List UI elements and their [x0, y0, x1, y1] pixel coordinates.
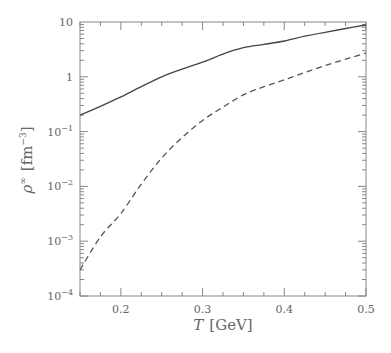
x-tick-label: 0.3	[194, 303, 212, 316]
dashed-curve	[80, 53, 366, 270]
x-tick-labels: 0.20.30.40.5	[112, 303, 375, 316]
y-tick-label: 10	[59, 16, 73, 29]
x-axis-title: T[GeV]	[193, 316, 252, 334]
x-tick-label: 0.4	[276, 303, 294, 316]
chart: 0.20.30.40.5 10110−110−210−310−4 T[GeV] …	[0, 0, 391, 353]
y-tick-labels: 10110−110−210−310−4	[47, 16, 73, 303]
axis-ticks	[80, 22, 366, 296]
solid-curve	[80, 25, 366, 115]
x-tick-label: 0.2	[112, 303, 130, 316]
y-tick-label: 10−4	[47, 288, 73, 303]
y-tick-label: 10−2	[47, 178, 73, 193]
plot-frame	[80, 22, 366, 296]
y-axis-title: ρ∞[fm−3]	[18, 126, 36, 194]
y-tick-label: 10−1	[47, 124, 73, 139]
y-tick-label: 1	[66, 71, 73, 84]
x-tick-label: 0.5	[357, 303, 375, 316]
y-tick-label: 10−3	[47, 233, 73, 248]
